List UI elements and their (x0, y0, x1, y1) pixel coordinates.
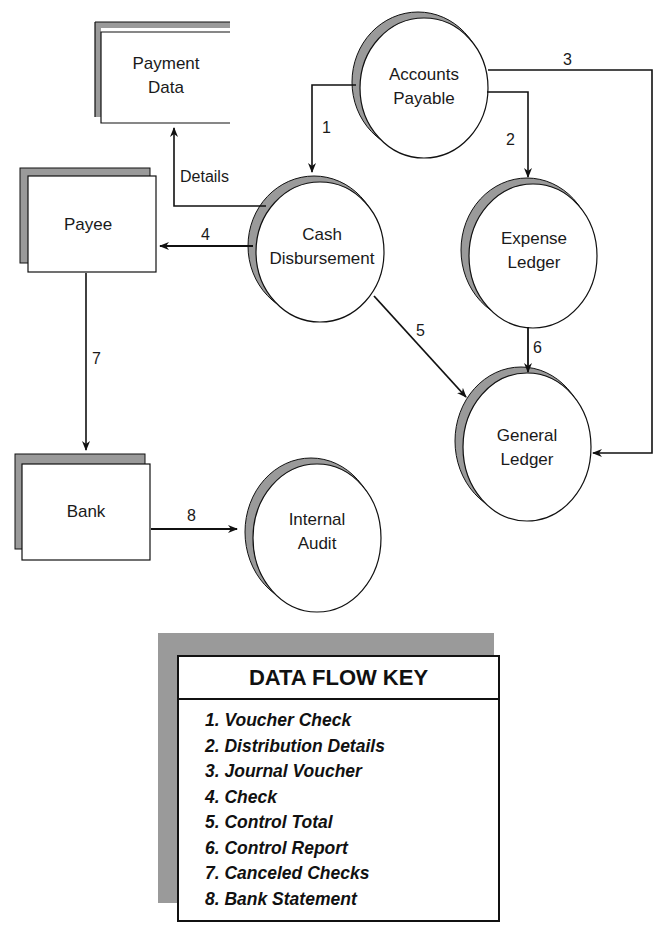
key-item: 1. Voucher Check (205, 708, 498, 734)
flow-3-label: 3 (563, 51, 572, 68)
flow-5: 5 (374, 296, 466, 397)
internal-audit-label-1: Internal (289, 510, 346, 529)
flow-4-label: 4 (201, 226, 210, 243)
cash-disbursement-label-2: Disbursement (270, 249, 375, 268)
flow-2: 2 (487, 92, 528, 177)
flow-8: 8 (151, 507, 237, 529)
key-item: 7. Canceled Checks (205, 861, 498, 887)
process-accounts-payable[interactable]: Accounts Payable (352, 12, 488, 158)
payee-label: Payee (64, 215, 112, 234)
process-expense-ledger[interactable]: Expense Ledger (461, 178, 597, 328)
key-item: 5. Control Total (205, 810, 498, 836)
flow-6: 6 (528, 327, 542, 372)
flow-7: 7 (86, 273, 101, 450)
flow-5-label: 5 (416, 322, 425, 339)
general-ledger-label-1: General (497, 426, 557, 445)
flow-4: 4 (160, 226, 253, 246)
flow-details: Details (174, 128, 266, 206)
process-cash-disbursement[interactable]: Cash Disbursement (248, 176, 384, 322)
flow-2-label: 2 (506, 131, 515, 148)
key-title: DATA FLOW KEY (179, 657, 498, 700)
accounts-payable-label-2: Payable (393, 89, 454, 108)
key-list: 1. Voucher Check 2. Distribution Details… (179, 700, 498, 912)
cash-disbursement-label-1: Cash (302, 225, 342, 244)
flow-6-label: 6 (533, 339, 542, 356)
accounts-payable-label-1: Accounts (389, 65, 459, 84)
general-ledger-label-2: Ledger (501, 450, 554, 469)
key-item: 2. Distribution Details (205, 734, 498, 760)
payment-data-label-1: Payment (132, 54, 199, 73)
data-flow-key: DATA FLOW KEY 1. Voucher Check 2. Distri… (177, 655, 500, 922)
data-store-payment-data[interactable]: Payment Data (95, 22, 230, 123)
key-item: 8. Bank Statement (205, 887, 498, 913)
payment-data-label-2: Data (148, 78, 184, 97)
expense-ledger-label-2: Ledger (508, 253, 561, 272)
flow-details-label: Details (180, 168, 229, 185)
internal-audit-label-2: Audit (298, 534, 337, 553)
key-item: 4. Check (205, 785, 498, 811)
process-internal-audit[interactable]: Internal Audit (245, 458, 381, 612)
process-general-ledger[interactable]: General Ledger (455, 367, 591, 521)
expense-ledger-label-1: Expense (501, 229, 567, 248)
flow-1: 1 (312, 85, 356, 172)
entity-bank[interactable]: Bank (15, 454, 150, 560)
key-item: 6. Control Report (205, 836, 498, 862)
entity-payee[interactable]: Payee (20, 168, 156, 272)
flow-1-label: 1 (322, 119, 331, 136)
flow-7-label: 7 (92, 350, 101, 367)
key-item: 3. Journal Voucher (205, 759, 498, 785)
flow-8-label: 8 (187, 507, 196, 524)
bank-label: Bank (67, 502, 106, 521)
